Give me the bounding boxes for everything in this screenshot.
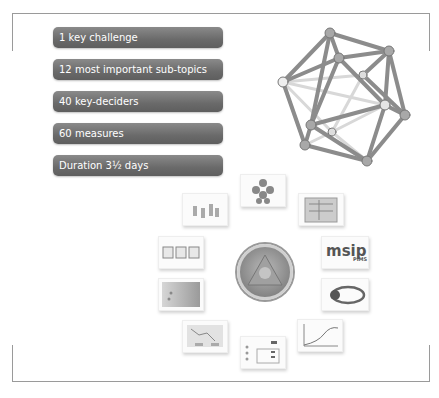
frame-left-bottom (12, 345, 13, 382)
org-tree-thumbnail (240, 174, 286, 207)
s-curve-chart-thumbnail (297, 319, 343, 352)
frame-bottom-line (12, 381, 430, 382)
map-image-thumbnail (158, 278, 204, 311)
central-emblem (237, 244, 293, 300)
frame-left-top (12, 13, 13, 51)
pill-key-challenge: 1 key challenge (53, 27, 223, 48)
flow-chart-thumbnail (182, 320, 228, 353)
frame-right-top (429, 13, 430, 51)
icosahedron-icon (255, 25, 420, 175)
figures-illustration-thumbnail (182, 193, 228, 226)
pill-sub-topics: 12 most important sub-topics (53, 59, 223, 80)
emblem-icon (240, 247, 290, 297)
schematic-diagram-thumbnail (298, 193, 344, 226)
three-panels-thumbnail (158, 236, 204, 269)
frame-right-bottom (429, 345, 430, 382)
pill-measures: 60 measures (53, 123, 223, 144)
frame-top-line (12, 13, 430, 14)
msip-pims-logo-thumbnail: msip PIMS (321, 236, 369, 269)
pill-key-deciders: 40 key-deciders (53, 91, 223, 112)
checklist-table-thumbnail (240, 336, 286, 369)
orbit-logo-thumbnail (321, 278, 369, 311)
pill-duration: Duration 3½ days (53, 155, 223, 176)
